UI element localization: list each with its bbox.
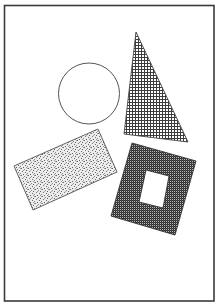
diagram-canvas <box>0 0 219 308</box>
